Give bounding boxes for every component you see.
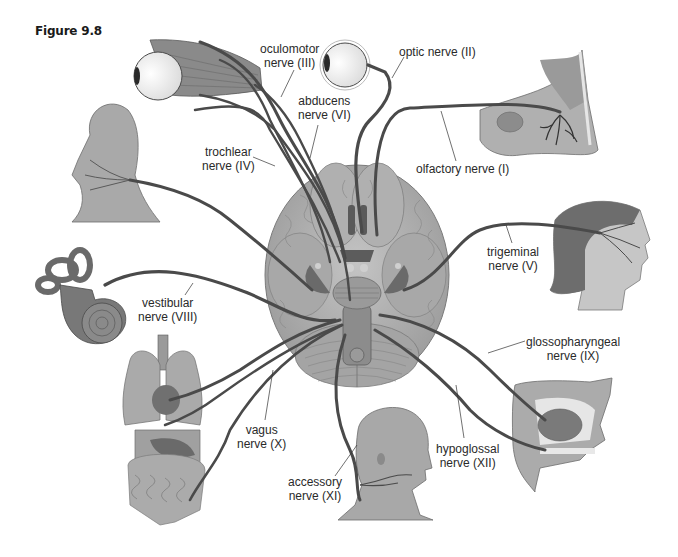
inner-ear-illustration [38,250,126,344]
label-glossopharyngeal-nerve: glossopharyngeal nerve (IX) [526,335,620,363]
eye-muscles-illustration [134,40,262,100]
oral-cavity-illustration [512,378,612,492]
diagram-artwork [0,0,678,557]
female-head-illustration [550,201,650,310]
label-vestibular-nerve: vestibular nerve (VIII) [138,296,197,324]
label-hypoglossal-nerve: hypoglossal nerve (XII) [436,442,499,470]
label-vagus-nerve: vagus nerve (X) [237,423,286,451]
label-optic-nerve: optic nerve (II) [399,45,476,59]
label-abducens-nerve: abducens nerve (VI) [298,94,351,122]
face-muscles-head-illustration [72,104,160,222]
label-olfactory-nerve: olfactory nerve (I) [416,162,509,176]
label-trochlear-nerve: trochlear nerve (IV) [202,145,255,173]
eye-optic-illustration [320,40,370,90]
label-oculomotor-nerve: oculomotor nerve (III) [260,42,319,70]
head-neck-accessory-illustration [338,407,433,520]
cranial-nerves-figure: Figure 9.8 [0,0,678,557]
label-accessory-nerve: accessory nerve (XI) [288,475,342,503]
nasal-cavity-illustration [480,50,598,156]
label-trigeminal-nerve: trigeminal nerve (V) [487,245,539,273]
